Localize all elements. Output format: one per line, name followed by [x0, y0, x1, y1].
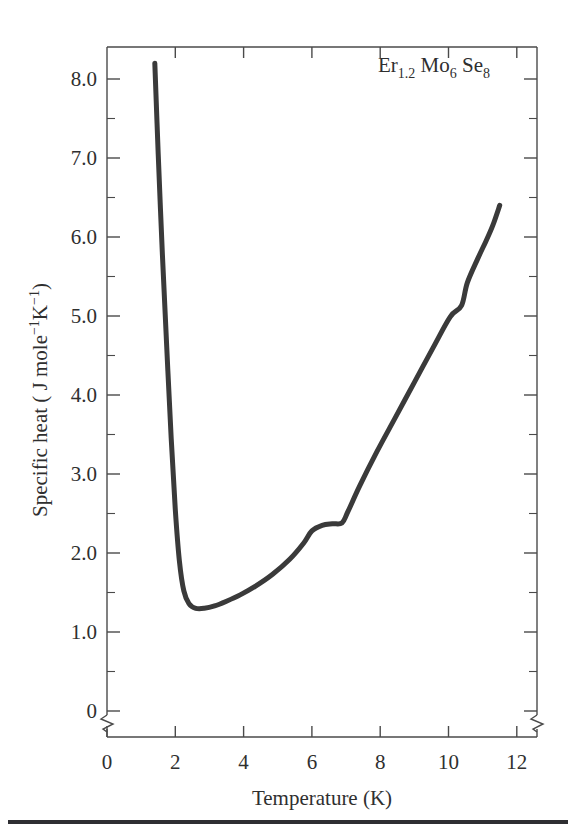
x-tick-label: 2: [170, 750, 181, 774]
svg-text:Er1.2 Mo6 Se8: Er1.2 Mo6 Se8: [378, 53, 490, 81]
x-tick-label: 12: [506, 750, 527, 774]
y-tick-label: 0: [87, 699, 98, 723]
y-tick-label: 5.0: [71, 304, 97, 328]
x-tick-label: 6: [307, 750, 318, 774]
specific-heat-chart: 8.0 7.0 6.0 5.0 4.0 3.0 2.0 1.0 0 0 2 4 …: [0, 0, 576, 838]
x-tick-label: 10: [438, 750, 459, 774]
svg-text:Specific heat ( J mole−1K−1): Specific heat ( J mole−1K−1): [27, 283, 52, 517]
y-tick-label: 7.0: [71, 146, 97, 170]
formula-annotation: Er1.2 Mo6 Se8: [378, 53, 490, 81]
x-tick-labels: 0 2 4 6 8 10 12: [102, 750, 528, 774]
x-major-ticks: [107, 726, 517, 737]
data-series-line: [155, 63, 500, 609]
y-tick-labels: 8.0 7.0 6.0 5.0 4.0 3.0 2.0 1.0 0: [71, 67, 97, 723]
formula-element-mo: Mo: [421, 53, 450, 77]
page-edge-rule: [8, 820, 568, 824]
y-tick-label: 3.0: [71, 462, 97, 486]
y-axis-title-mid: K: [28, 305, 52, 320]
plot-frame: [107, 47, 537, 737]
x-tick-label: 0: [102, 750, 113, 774]
y-axis-title-tail: ): [28, 283, 52, 290]
formula-element-er: Er: [378, 53, 398, 77]
y-axis-title: Specific heat ( J mole−1K−1): [27, 283, 52, 517]
x-axis-title: Temperature (K): [252, 786, 392, 810]
formula-element-se: Se: [462, 53, 483, 77]
y-axis-title-sup2: −1: [27, 290, 42, 305]
formula-sub-1: 1.2: [398, 66, 416, 81]
y-axis-title-lead: Specific heat ( J mole: [28, 335, 52, 517]
y-right-ticks: [524, 79, 537, 711]
x-tick-label: 8: [375, 750, 386, 774]
y-axis-title-sup1: −1: [27, 320, 42, 335]
axis-break-marks: [101, 715, 543, 732]
figure-container: 8.0 7.0 6.0 5.0 4.0 3.0 2.0 1.0 0 0 2 4 …: [0, 0, 576, 838]
y-tick-label: 2.0: [71, 541, 97, 565]
y-tick-label: 6.0: [71, 225, 97, 249]
y-tick-label: 8.0: [71, 67, 97, 91]
y-tick-label: 1.0: [71, 620, 97, 644]
formula-sub-2: 6: [450, 66, 457, 81]
formula-sub-3: 8: [483, 66, 490, 81]
y-major-ticks: [107, 79, 120, 711]
y-tick-label: 4.0: [71, 383, 97, 407]
x-tick-label: 4: [238, 750, 249, 774]
